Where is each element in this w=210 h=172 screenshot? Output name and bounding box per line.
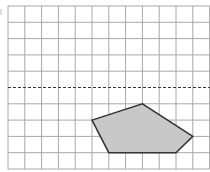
polygon-shape <box>92 104 193 153</box>
grid-diagram <box>0 0 210 172</box>
